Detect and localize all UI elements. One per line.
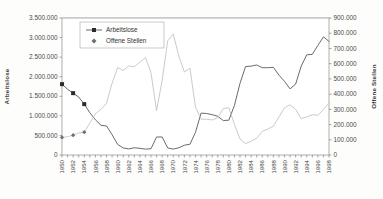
legend-label: Arbeitslose [106,26,138,33]
legend-marker-square [92,28,96,32]
y2-tick-label: 100.000 [334,136,358,143]
y-tick-label: 3.500.000 [29,14,58,21]
x-tick-label: 1958 [103,159,110,173]
chart-legend: ArbeitsloseOffene Stellen [80,22,164,48]
y2-tick-label: 400.000 [334,90,358,97]
y-axis-left-title: Arbeitslose [3,68,10,104]
x-tick-label: 1982 [236,159,243,173]
y-tick-label: 500.000 [34,132,58,139]
x-tick-label: 1966 [147,159,154,173]
data-point-marker [82,102,86,106]
x-tick-label: 1988 [270,159,277,173]
y-tick-label: 1.500.000 [29,92,58,99]
y2-tick-label: 700.000 [334,45,358,52]
x-tick-label: 1962 [125,159,132,173]
x-tick-label: 1974 [192,159,199,173]
x-tick-label: 1992 [292,159,299,173]
y2-tick-label: 0 [334,151,338,158]
y2-tick-label: 900.000 [334,14,358,21]
y2-tick-label: 200.000 [334,121,358,128]
y-tick-label: 2.500.000 [29,53,58,60]
x-tick-label: 1980 [225,159,232,173]
y-tick-label: 1.000.000 [29,112,58,119]
x-tick-label: 1984 [247,159,254,173]
y-axis-right-title: Offene Stellen [370,64,377,108]
y2-tick-label: 600.000 [334,60,358,67]
x-tick-label: 1956 [92,159,99,173]
legend-label: Offene Stellen [106,37,147,44]
y-tick-label: 2.000.000 [29,73,58,80]
y2-tick-label: 300.000 [334,106,358,113]
x-tick-label: 1960 [114,159,121,173]
x-tick-label: 1976 [203,159,210,173]
x-tick-label: 1950 [58,159,65,173]
x-tick-label: 1954 [80,159,87,173]
dual-axis-line-chart: 0500.0001.000.0001.500.0002.000.0002.500… [0,0,383,199]
data-point-marker [71,91,75,95]
x-tick-label: 1964 [136,159,143,173]
y2-tick-label: 500.000 [334,75,358,82]
chart-container: 0500.0001.000.0001.500.0002.000.0002.500… [0,0,383,199]
x-tick-label: 1986 [258,159,265,173]
y-tick-label: 0 [54,151,58,158]
x-tick-label: 1972 [181,159,188,173]
y-tick-label: 3.000.000 [29,34,58,41]
x-tick-label: 1970 [169,159,176,173]
x-tick-label: 1952 [69,159,76,173]
x-tick-label: 1990 [281,159,288,173]
x-tick-label: 1996 [314,159,321,173]
x-tick-label: 1994 [303,159,310,173]
x-tick-label: 1998 [325,159,332,173]
x-tick-label: 1968 [158,159,165,173]
y2-tick-label: 800.000 [334,29,358,36]
x-tick-label: 1978 [214,159,221,173]
data-point-marker [60,82,64,86]
